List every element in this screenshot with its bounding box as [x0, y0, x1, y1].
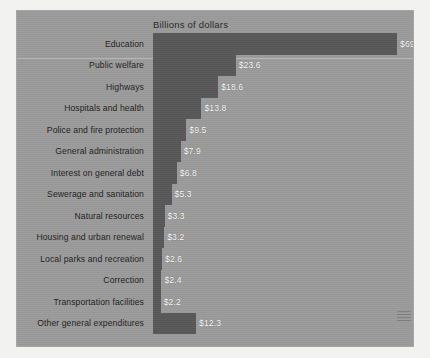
category-label: General administration — [17, 146, 153, 156]
bar-value-label: $7.9 — [184, 146, 201, 156]
bar — [153, 291, 161, 313]
bar — [153, 162, 177, 184]
category-label: Sewerage and sanitation — [17, 189, 153, 199]
bar — [153, 248, 162, 270]
bar-row: Public welfare$23.6 — [17, 55, 413, 77]
category-label: Public welfare — [17, 60, 153, 70]
bar-track: $2.2 — [153, 291, 413, 313]
bar-value-label: $3.3 — [168, 211, 185, 221]
bar-track: $69.6 — [153, 33, 413, 55]
bar — [153, 33, 397, 55]
category-label: Hospitals and health — [17, 103, 153, 113]
bar-value-label: $2.6 — [165, 254, 182, 264]
bar — [153, 313, 196, 335]
bar — [153, 227, 164, 249]
bar-track: $3.2 — [153, 227, 413, 249]
bar-row: Hospitals and health$13.8 — [17, 98, 413, 120]
bar — [153, 98, 201, 120]
bar-row: General administration$7.9 — [17, 141, 413, 163]
bar-value-label: $2.4 — [164, 275, 181, 285]
chart-plot-area: Billions of dollars Education$69.6Public… — [17, 11, 413, 346]
category-label: Correction — [17, 275, 153, 285]
category-label: Police and fire protection — [17, 125, 153, 135]
bar-track: $23.6 — [153, 55, 413, 77]
bar-row: Highways$18.6 — [17, 76, 413, 98]
category-label: Highways — [17, 82, 153, 92]
bar-track: $2.4 — [153, 270, 413, 292]
category-label: Local parks and recreation — [17, 254, 153, 264]
bar-value-label: $2.2 — [164, 297, 181, 307]
bar — [153, 76, 218, 98]
category-label: Education — [17, 39, 153, 49]
bar-track: $5.3 — [153, 184, 413, 206]
bar-value-label: $12.3 — [199, 318, 221, 328]
chart-figure: Billions of dollars Education$69.6Public… — [17, 11, 413, 346]
bar-track: $6.8 — [153, 162, 413, 184]
bar-track: $13.8 — [153, 98, 413, 120]
bar-row: Housing and urban renewal$3.2 — [17, 227, 413, 249]
category-label: Transportation facilities — [17, 297, 153, 307]
bar — [153, 184, 172, 206]
bar-row: Sewerage and sanitation$5.3 — [17, 184, 413, 206]
category-label: Other general expenditures — [17, 318, 153, 328]
bar-value-label: $18.6 — [221, 82, 243, 92]
bar-row: Education$69.6 — [17, 33, 413, 55]
bar-track: $3.3 — [153, 205, 413, 227]
category-label: Housing and urban renewal — [17, 232, 153, 242]
bar-track: $7.9 — [153, 141, 413, 163]
bar-row: Natural resources$3.3 — [17, 205, 413, 227]
bar-value-label: $6.8 — [180, 168, 197, 178]
bar — [153, 270, 161, 292]
bar-value-label: $23.6 — [239, 60, 261, 70]
bar-track: $2.6 — [153, 248, 413, 270]
bar-row: Transportation facilities$2.2 — [17, 291, 413, 313]
category-label: Natural resources — [17, 211, 153, 221]
bar — [153, 205, 165, 227]
bar-value-label: $69.6 — [400, 39, 413, 49]
bar-row: Correction$2.4 — [17, 270, 413, 292]
bar-value-label: $5.3 — [175, 189, 192, 199]
bar-track: $18.6 — [153, 76, 413, 98]
chart-title: Billions of dollars — [153, 19, 228, 30]
bar-row: Police and fire protection$9.5 — [17, 119, 413, 141]
bar-value-label: $13.8 — [204, 103, 226, 113]
bar — [153, 55, 236, 77]
bar-track: $12.3 — [153, 313, 413, 335]
bar — [153, 141, 181, 163]
bar-row: Local parks and recreation$2.6 — [17, 248, 413, 270]
bar-rows: Education$69.6Public welfare$23.6Highway… — [17, 33, 413, 334]
category-label: Interest on general debt — [17, 168, 153, 178]
bar-value-label: $3.2 — [167, 232, 184, 242]
bar — [153, 119, 186, 141]
bar-value-label: $9.5 — [189, 125, 206, 135]
bar-row: Other general expenditures$12.3 — [17, 313, 413, 335]
bar-track: $9.5 — [153, 119, 413, 141]
bar-row: Interest on general debt$6.8 — [17, 162, 413, 184]
